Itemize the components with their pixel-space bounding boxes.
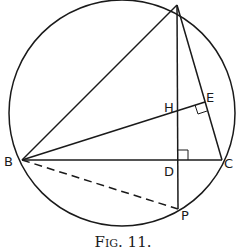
caption-number: . 11. (118, 233, 151, 251)
side-ab (22, 5, 177, 160)
geometry-figure: B C D E H P FIG. 11. (0, 0, 246, 252)
caption-f: F (95, 233, 105, 251)
label-b: B (4, 154, 13, 169)
altitude-ad-extended-to-p (177, 5, 178, 209)
label-h: H (164, 100, 174, 115)
caption-ig: IG (105, 237, 118, 250)
figure-caption: FIG. 11. (95, 233, 152, 251)
label-p: P (181, 208, 189, 223)
side-ac (177, 5, 222, 160)
label-d: D (164, 164, 174, 179)
dashed-segment-bp (22, 160, 178, 209)
right-angle-mark-e (195, 105, 207, 114)
label-e: E (206, 90, 214, 105)
label-c: C (224, 156, 233, 171)
right-angle-mark-d (178, 150, 188, 160)
